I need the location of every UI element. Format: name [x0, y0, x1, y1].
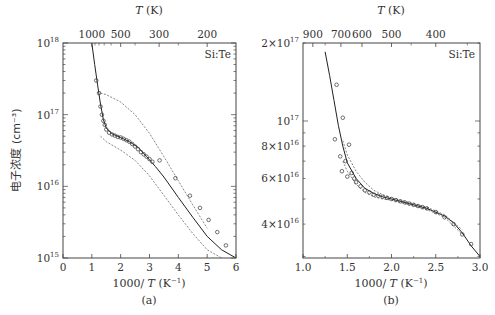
y-tick-label: 8×1016	[261, 139, 299, 152]
ticks-b: 1.01.52.02.53.09007006005004002×10171017…	[261, 28, 488, 273]
data-point	[340, 169, 344, 173]
top-tick-label: 500	[111, 28, 131, 40]
x-tick-label: 3.0	[472, 261, 489, 273]
x-tick-label: 4	[175, 261, 182, 273]
data-point	[198, 206, 202, 210]
top-tick-label: 400	[426, 28, 446, 40]
y-tick-label: 1017	[277, 114, 299, 127]
data-point	[359, 185, 363, 189]
data-point	[346, 175, 350, 179]
data-point	[338, 155, 342, 159]
ticks-a: 012345610005003002001018101710161015	[37, 28, 240, 273]
y-tick-label: 1018	[37, 36, 59, 49]
figure: 012345610005003002001018101710161015 Si:…	[0, 0, 495, 315]
plot-area-a	[92, 43, 236, 258]
x-tick-label: 2.5	[427, 261, 444, 273]
x-axis-title-a: 1000/ T (K−1)	[112, 277, 185, 290]
y-tick-label: 6×1016	[261, 171, 299, 184]
top-tick-label: 700	[331, 28, 351, 40]
data-point	[354, 181, 358, 185]
data-point	[216, 230, 220, 234]
dashed-curve	[343, 161, 463, 234]
x-tick-label: 3	[146, 261, 153, 273]
axes-frame-a	[63, 43, 236, 258]
panel-b-label: Si:Te	[449, 48, 476, 60]
plot-area-b	[325, 52, 480, 257]
x-tick-label: 0	[60, 261, 67, 273]
top-tick-label: 300	[149, 28, 169, 40]
y-tick-label: 2×1017	[261, 36, 299, 49]
x-tick-label: 1.5	[339, 261, 356, 273]
top-tick-label: 1000	[78, 28, 105, 40]
y-axis-title-a: 电子浓度 (cm⁻³)	[9, 108, 23, 191]
data-point	[158, 159, 162, 163]
caption-b: (b)	[383, 294, 399, 307]
data-point	[224, 244, 228, 248]
data-point	[335, 83, 339, 87]
y-tick-label: 1016	[37, 179, 60, 192]
x-tick-label: 6	[233, 261, 240, 273]
data-point	[333, 138, 337, 142]
top-tick-label: 900	[303, 28, 323, 40]
x-tick-label: 1	[88, 261, 95, 273]
top-tick-label: 200	[197, 28, 217, 40]
panel-b: 1.01.52.02.53.09007006005004002×10171017…	[261, 4, 488, 307]
top-tick-label: 600	[352, 28, 372, 40]
y-tick-label: 1015	[37, 251, 59, 264]
x-tick-label: 2.0	[383, 261, 400, 273]
dashed-curve	[343, 141, 463, 230]
x-tick-label: 5	[204, 261, 211, 273]
x-tick-label: 2	[117, 261, 124, 273]
x-tick-label: 1.0	[295, 261, 312, 273]
data-point	[347, 143, 351, 147]
data-point	[341, 116, 345, 120]
top-axis-title-b: T (K)	[377, 4, 405, 17]
fit-curve	[325, 52, 480, 257]
caption-a: (a)	[141, 294, 156, 307]
data-point	[207, 218, 211, 222]
x-axis-title-b: 1000/ T (K−1)	[354, 277, 427, 290]
data-point	[363, 189, 367, 193]
top-axis-title-a: T (K)	[135, 4, 163, 17]
fit-curve	[92, 43, 236, 258]
top-tick-label: 500	[381, 28, 401, 40]
dashed-curve	[101, 136, 222, 258]
panel-a: 012345610005003002001018101710161015 Si:…	[9, 4, 240, 307]
data-point	[188, 194, 192, 198]
panel-a-label: Si:Te	[205, 48, 232, 60]
y-tick-label: 4×1016	[261, 217, 299, 230]
y-tick-label: 1017	[37, 108, 59, 121]
